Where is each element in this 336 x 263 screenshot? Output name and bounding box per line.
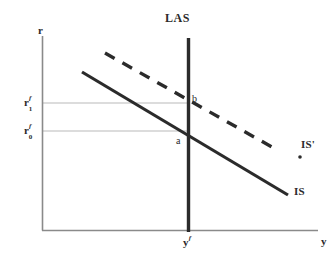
y-tick-subscript-r1f: 1 — [29, 105, 33, 113]
x-axis-label: y — [321, 236, 327, 247]
is-prime-trailing-dot — [298, 155, 302, 159]
y-tick-superscript-r0f: f — [29, 122, 32, 130]
x-tick-base-yf: y — [183, 236, 189, 248]
is-curve-label: IS — [294, 186, 305, 197]
x-tick-label-yf: yf — [183, 236, 191, 248]
y-tick-label-r0f: rf0 — [24, 124, 35, 139]
point-label-a: a — [176, 136, 181, 146]
y-tick-superscript-r1f: f — [29, 94, 32, 102]
x-tick-superscript-yf: f — [189, 234, 192, 242]
y-axis-label: r — [38, 25, 43, 36]
y-tick-label-r1f: rf1 — [24, 96, 35, 111]
plot-canvas — [0, 0, 336, 263]
is-prime-curve-label: IS' — [301, 139, 315, 150]
is-las-diagram: r y LAS IS IS' b a rf1 rf0 yf — [0, 0, 336, 263]
las-curve-label: LAS — [165, 12, 190, 24]
is-curve — [82, 72, 288, 195]
point-label-b: b — [192, 94, 197, 104]
y-tick-subscript-r0f: 0 — [29, 133, 33, 141]
